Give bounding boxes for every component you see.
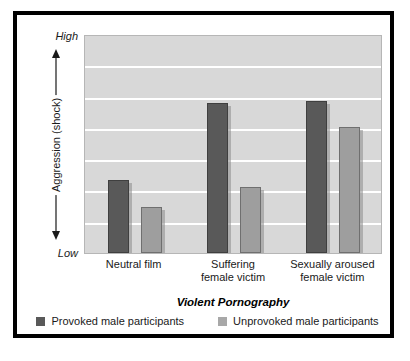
x-tick-label-line: Neutral film [84,258,183,271]
bar[interactable] [207,103,228,253]
y-axis: High Low Aggression (shock) [17,35,84,254]
bar-group [184,36,283,253]
figure-frame: High Low Aggression (shock) Neutral film… [13,11,394,338]
bar[interactable] [108,180,129,253]
legend-swatch-icon [36,317,45,326]
x-tick-label-line: Suffering [183,258,282,271]
y-axis-title: Aggression (shock) [50,94,62,194]
bar-group [284,36,382,253]
x-tick-label-line: female victim [283,271,382,284]
x-tick-label: Sufferingfemale victim [183,258,282,284]
plot-area [84,35,382,254]
bar[interactable] [240,187,261,253]
y-axis-min-label: Low [58,247,78,259]
legend-swatch-icon [218,317,227,326]
x-tick-label-line: Sexually aroused [283,258,382,271]
bars-layer [85,36,381,253]
chart-legend: Provoked male participantsUnprovoked mal… [31,315,384,327]
chart-canvas: High Low Aggression (shock) Neutral film… [17,15,390,334]
bar[interactable] [306,101,327,253]
x-tick-label-line: female victim [183,271,282,284]
y-axis-arrow: Aggression (shock) [46,49,66,240]
legend-entry[interactable]: Provoked male participants [36,315,184,327]
bar[interactable] [141,207,162,253]
y-axis-max-label: High [55,30,78,42]
x-axis-title: Violent Pornography [84,296,382,308]
x-tick-label: Neutral film [84,258,183,271]
bar-group [85,36,184,253]
legend-label: Provoked male participants [51,315,184,327]
x-tick-label: Sexually arousedfemale victim [283,258,382,284]
bar[interactable] [339,127,360,253]
legend-entry[interactable]: Unprovoked male participants [218,315,379,327]
legend-label: Unprovoked male participants [233,315,379,327]
